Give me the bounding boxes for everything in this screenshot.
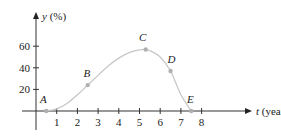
x-axis-var: t <box>256 105 260 117</box>
point-c <box>144 47 148 51</box>
point-a <box>44 109 48 113</box>
point-d <box>168 69 172 73</box>
x-axis-unit: (years) <box>262 105 281 118</box>
y-tick-label: 60 <box>19 40 31 52</box>
y-axis-arrow-icon <box>33 12 39 19</box>
y-tick-label: 20 <box>19 83 31 95</box>
point-label-c: C <box>139 31 147 43</box>
y-axis-unit: (%) <box>50 10 67 23</box>
x-axis-arrow-icon <box>245 108 252 114</box>
x-tick-label: 4 <box>116 116 122 128</box>
y-axis-var: y <box>41 10 47 22</box>
chart: 12345678 204060 y (%) t (years) ABCDE <box>0 0 281 138</box>
point-b <box>86 83 90 87</box>
x-axis-label: t (years) <box>256 105 281 118</box>
x-tick-label: 1 <box>54 116 60 128</box>
point-label-e: E <box>186 93 194 105</box>
y-tick-label: 40 <box>19 62 31 74</box>
point-label-a: A <box>39 93 47 105</box>
x-tick-label: 6 <box>157 116 163 128</box>
x-tick-label: 3 <box>95 116 101 128</box>
x-tick-label: 8 <box>199 116 205 128</box>
x-tick-label: 2 <box>75 116 81 128</box>
labeled-points: ABCDE <box>39 31 194 113</box>
point-label-b: B <box>83 67 90 79</box>
point-e <box>189 109 193 113</box>
x-tick-label: 7 <box>178 116 184 128</box>
y-axis-label: y (%) <box>41 10 66 23</box>
point-label-d: D <box>167 53 176 65</box>
x-tick-label: 5 <box>137 116 143 128</box>
